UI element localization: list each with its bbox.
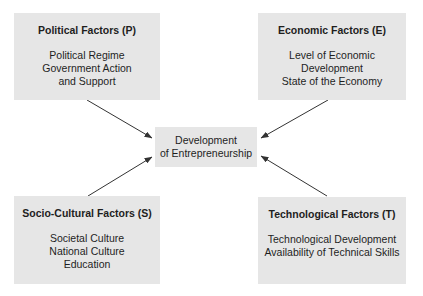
factor-item: Societal Culture [14, 232, 160, 245]
arrow-technological-to-center [261, 156, 327, 196]
center-line: Development [155, 134, 257, 147]
center-line: of Entrepreneurship [155, 147, 257, 160]
factor-item: Education [14, 258, 160, 271]
pest-diagram: Political Factors (P) Political Regime G… [0, 0, 423, 296]
arrow-political-to-center [87, 100, 152, 138]
socio-cultural-factors-box: Socio-Cultural Factors (S) Societal Cult… [14, 196, 160, 284]
factor-items: Technological Development Availability o… [258, 233, 406, 259]
factor-item: State of the Economy [258, 75, 406, 88]
factor-items: Political Regime Government Action and S… [14, 49, 160, 88]
factor-item: Availability of Technical Skills [258, 246, 406, 259]
factor-item: Government Action [14, 62, 160, 75]
political-factors-box: Political Factors (P) Political Regime G… [14, 13, 160, 100]
factor-title: Political Factors (P) [14, 24, 160, 37]
development-of-entrepreneurship-box: Development of Entrepreneurship [155, 127, 257, 167]
factor-title: Technological Factors (T) [258, 208, 406, 221]
economic-factors-box: Economic Factors (E) Level of Economic D… [258, 13, 406, 100]
arrow-economic-to-center [261, 100, 328, 138]
factor-item: Technological Development [258, 233, 406, 246]
arrow-sociocultural-to-center [88, 157, 152, 196]
factor-item: and Support [14, 75, 160, 88]
factor-item: Level of Economic [258, 49, 406, 62]
factor-item: National Culture [14, 245, 160, 258]
factor-item: Development [258, 62, 406, 75]
factor-items: Societal Culture National Culture Educat… [14, 232, 160, 271]
factor-title: Socio-Cultural Factors (S) [14, 207, 160, 220]
technological-factors-box: Technological Factors (T) Technological … [258, 197, 406, 284]
factor-item: Political Regime [14, 49, 160, 62]
factor-items: Level of Economic Development State of t… [258, 49, 406, 88]
factor-title: Economic Factors (E) [258, 24, 406, 37]
